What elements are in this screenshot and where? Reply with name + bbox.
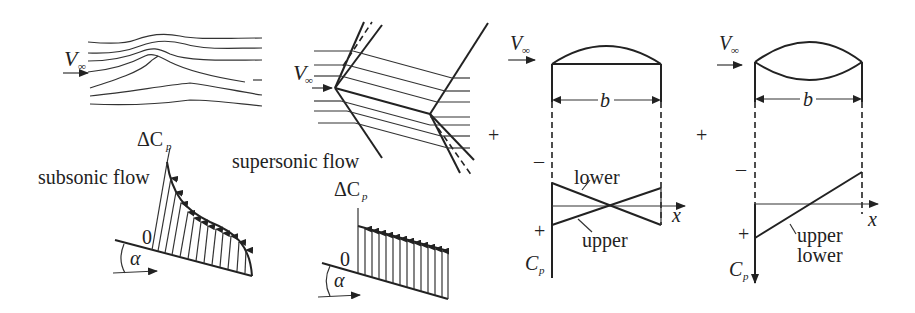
lower-label: lower xyxy=(797,244,843,266)
flow-label-subsonic: subsonic flow xyxy=(38,166,150,188)
freestream-sub: ∞ xyxy=(522,44,530,56)
supersonic-flow: V ∞ supersonic flow xyxy=(232,22,488,176)
plus-sign: + xyxy=(696,124,707,146)
angle-alpha-label: α xyxy=(130,247,141,269)
delta-cp-sub: p xyxy=(361,190,368,202)
subsonic-streamlines: V ∞ xyxy=(63,34,262,106)
chord-label: b xyxy=(803,88,813,110)
minus-label: – xyxy=(735,158,747,180)
freestream-sub: ∞ xyxy=(731,44,739,56)
cp-axis-label: C xyxy=(729,258,743,280)
zero-label: 0 xyxy=(340,248,350,270)
angle-alpha-label: α xyxy=(334,269,345,291)
plus-label: + xyxy=(738,223,749,245)
cp-axis-sub: p xyxy=(742,270,749,282)
freestream-sub: ∞ xyxy=(305,74,313,86)
minus-label: – xyxy=(533,150,545,172)
delta-cp-label: ΔC xyxy=(334,178,360,200)
aerodynamics-diagram: V ∞ ΔC p subsonic flow 0 α xyxy=(0,0,915,313)
flow-label-supersonic: supersonic flow xyxy=(232,150,360,173)
camber-panel: V ∞ b – + lower upper x C p xyxy=(508,32,685,278)
supersonic-pressure-plot: ΔC p 0 α xyxy=(318,178,448,299)
upper-label: upper xyxy=(582,229,628,252)
delta-cp-label: ΔC xyxy=(137,128,163,150)
pressure-arrows xyxy=(152,163,246,273)
plus-label: + xyxy=(534,220,545,242)
plus-sign: + xyxy=(488,124,499,146)
x-axis-label: x xyxy=(671,204,681,226)
delta-cp-sub: p xyxy=(165,140,172,152)
freestream-sub: ∞ xyxy=(78,60,86,72)
x-axis-label: x xyxy=(867,208,877,230)
thickness-panel: V ∞ b – + upper lower x C p xyxy=(717,32,878,283)
cp-axis-sub: p xyxy=(538,264,545,276)
lower-label: lower xyxy=(574,166,620,188)
cp-axis-label: C xyxy=(525,252,539,274)
subsonic-pressure-plot: ΔC p subsonic flow 0 α xyxy=(38,128,252,276)
chord-label: b xyxy=(600,89,610,111)
zero-label: 0 xyxy=(142,226,152,248)
